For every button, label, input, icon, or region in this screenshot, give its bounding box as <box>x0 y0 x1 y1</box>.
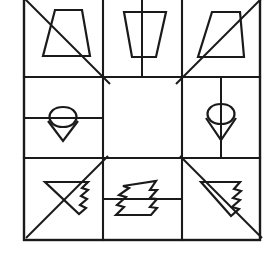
cell-r1c2[interactable] <box>103 0 182 77</box>
cell-r3c1[interactable] <box>24 158 103 240</box>
cell-r3c2[interactable] <box>103 158 182 240</box>
matrix-svg <box>0 0 275 261</box>
matrix-puzzle <box>0 0 275 261</box>
cell-r1c1[interactable] <box>24 0 103 77</box>
cell-r2c2-empty[interactable] <box>103 77 182 158</box>
cell-r2c1[interactable] <box>24 77 103 158</box>
cell-r2c3[interactable] <box>182 77 260 158</box>
cell-r1c3[interactable] <box>182 0 260 77</box>
cell-r3c3[interactable] <box>182 158 260 240</box>
